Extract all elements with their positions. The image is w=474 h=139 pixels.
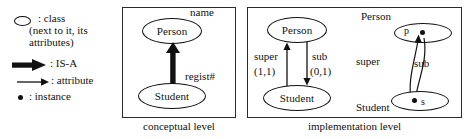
instance-dot-s	[412, 98, 417, 103]
conceptual-class-student: Student	[138, 83, 206, 109]
conceptual-level-panel: Person name Student regist#	[122, 7, 236, 118]
legend-label-class: : class	[38, 13, 65, 25]
thick-arrow-icon	[12, 58, 48, 72]
legend-label-is-a: : IS-A	[50, 58, 77, 70]
conceptual-attribute-name: name	[190, 6, 214, 18]
instance-super-label: super	[356, 55, 380, 67]
implementation-super-arrow	[282, 42, 292, 86]
implementation-class-student: Student	[263, 85, 331, 111]
thin-arrow-icon	[17, 76, 51, 88]
implementation-super-label: super	[254, 50, 278, 62]
implementation-level-panel: Person super (1,1) sub (0,1) Student Per…	[247, 7, 462, 118]
implementation-sub-cardinality: (0,1)	[310, 65, 331, 77]
implementation-class-person: Person	[267, 17, 327, 43]
conceptual-attribute-regist: regist#	[185, 70, 215, 82]
legend-label-instance: : instance	[29, 91, 71, 103]
implementation-level-caption: implementation level	[247, 120, 462, 132]
legend: : class (next to it, its attributes) : I…	[0, 0, 120, 110]
implementation-class-person-label: Person	[282, 24, 313, 36]
instance-class-label-student: Student	[356, 101, 390, 113]
conceptual-class-student-label: Student	[155, 90, 189, 102]
instance-ellipse-student	[391, 91, 449, 111]
uml-class-instance-diagram: : class (next to it, its attributes) : I…	[0, 0, 474, 139]
instance-label-s: s	[421, 96, 425, 107]
implementation-sub-label: sub	[312, 50, 327, 62]
implementation-sub-arrow	[302, 42, 312, 86]
conceptual-isa-arrow	[164, 41, 182, 86]
implementation-super-cardinality: (1,1)	[254, 65, 275, 77]
instance-sub-label: sub	[414, 57, 429, 69]
instance-class-label-person: Person	[361, 10, 391, 22]
dot-icon	[18, 95, 23, 100]
legend-sublabel-class-attributes: (next to it, its attributes)	[29, 25, 115, 48]
legend-label-attribute: : attribute	[51, 75, 93, 87]
conceptual-class-person-label: Person	[157, 25, 188, 37]
conceptual-level-caption: conceptual level	[122, 120, 236, 132]
implementation-class-student-label: Student	[280, 92, 314, 104]
